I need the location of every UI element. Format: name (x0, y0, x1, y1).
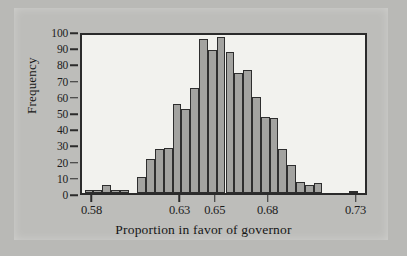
x-axis-tick (267, 195, 269, 202)
histogram-bar (120, 190, 129, 193)
histogram-bar (217, 37, 226, 193)
histogram-bar (199, 39, 208, 193)
y-axis-tick-label: 10 (57, 173, 68, 185)
histogram-bar (305, 185, 314, 193)
histogram-bar (93, 190, 102, 193)
histogram-bar (137, 177, 146, 193)
x-axis-tick (214, 195, 216, 202)
histogram-bar (270, 118, 279, 193)
histogram-bar (155, 149, 164, 193)
y-axis-tick-label: 90 (57, 43, 68, 55)
y-axis: 0102030405060708090100 (0, 0, 80, 256)
x-axis-tick-label: 0.68 (257, 203, 278, 218)
y-axis-tick-label: 60 (57, 92, 68, 104)
y-axis-tick (70, 48, 78, 50)
histogram-bar (111, 190, 120, 193)
histogram-bar (173, 104, 182, 193)
y-axis-tick (70, 162, 78, 164)
histogram-bar (102, 185, 111, 193)
x-axis-tick (179, 195, 181, 202)
histogram-bar (146, 159, 155, 193)
x-axis-tick (355, 195, 357, 202)
y-axis-tick (70, 32, 78, 34)
x-axis-tick (91, 195, 93, 202)
y-axis-tick (70, 178, 78, 180)
histogram-bar (296, 182, 305, 193)
y-axis-tick (70, 194, 78, 196)
histogram-bar (234, 73, 243, 193)
histogram-bar (164, 148, 173, 193)
histogram-bar (252, 97, 261, 193)
plot-area (80, 33, 367, 195)
histogram-bar (226, 52, 235, 193)
bar-series (82, 35, 365, 193)
y-axis-tick-label: 100 (51, 27, 68, 39)
y-axis-tick-label: 70 (57, 76, 68, 88)
y-axis-tick-label: 40 (57, 124, 68, 136)
x-axis-tick-label: 0.58 (81, 203, 102, 218)
y-axis-title: Frequency (24, 57, 40, 114)
y-axis-tick (70, 81, 78, 83)
histogram-bar (190, 88, 199, 193)
y-axis-tick-label: 30 (57, 140, 68, 152)
histogram-bar (243, 70, 252, 193)
y-axis-tick (70, 146, 78, 148)
y-axis-tick (70, 129, 78, 131)
histogram-bar (349, 191, 358, 193)
histogram-bar (181, 109, 190, 193)
histogram-bar (261, 117, 270, 193)
y-axis-tick-label: 20 (57, 157, 68, 169)
histogram-bar (208, 50, 217, 193)
histogram-figure: 0102030405060708090100 Frequency 0.580.6… (0, 0, 407, 256)
histogram-bar (85, 190, 94, 193)
y-axis-tick-label: 50 (57, 108, 68, 120)
histogram-bar (278, 149, 287, 193)
y-axis-tick-label: 0 (62, 189, 68, 201)
y-axis-tick (70, 113, 78, 115)
y-axis-tick-label: 80 (57, 59, 68, 71)
x-axis-tick-label: 0.63 (169, 203, 190, 218)
x-axis-tick-label: 0.65 (204, 203, 225, 218)
x-axis-tick-label: 0.73 (345, 203, 366, 218)
y-axis-tick (70, 65, 78, 67)
histogram-bar (287, 165, 296, 193)
y-axis-tick (70, 97, 78, 99)
x-axis-title: Proportion in favor of governor (0, 222, 407, 238)
histogram-bar (314, 183, 323, 193)
